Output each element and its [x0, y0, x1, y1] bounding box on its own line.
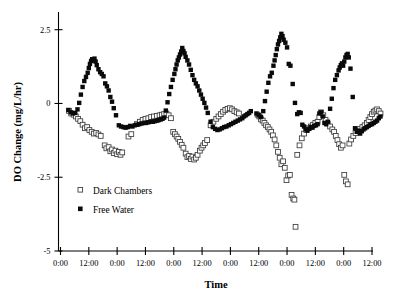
- data-point: [189, 68, 193, 72]
- data-point: [112, 106, 116, 110]
- data-point: [266, 81, 270, 85]
- data-point: [199, 92, 203, 96]
- data-point: [274, 53, 278, 57]
- data-point: [181, 145, 186, 150]
- scatter-plot-svg: 2.50-2.5-5 0:0012:000:0012:000:0012:000:…: [0, 0, 400, 298]
- data-point: [295, 152, 300, 157]
- series-free-water-points: [66, 32, 382, 136]
- data-point: [331, 86, 335, 90]
- data-point: [341, 64, 345, 68]
- data-point: [271, 64, 275, 68]
- data-point: [342, 59, 346, 63]
- x-tick-label: 0:00: [336, 259, 351, 268]
- data-point: [79, 92, 83, 96]
- data-point: [326, 120, 330, 124]
- data-point: [282, 165, 287, 170]
- data-point: [208, 120, 212, 124]
- data-point: [292, 197, 297, 202]
- data-point: [167, 92, 171, 96]
- data-point: [164, 108, 168, 112]
- data-point: [195, 84, 199, 88]
- x-tick-label: 0:00: [280, 259, 295, 268]
- data-point: [197, 88, 201, 92]
- data-point: [169, 85, 173, 89]
- data-point: [285, 45, 289, 49]
- data-point: [264, 89, 268, 93]
- data-point: [319, 110, 323, 114]
- data-point: [206, 111, 210, 115]
- data-point: [298, 111, 302, 115]
- data-point: [82, 79, 86, 83]
- y-tick-label: 0: [46, 99, 50, 108]
- data-point: [110, 100, 114, 104]
- chart-legend: Dark Chambers Free Water: [78, 186, 152, 215]
- data-point: [172, 72, 176, 76]
- data-point: [272, 58, 276, 62]
- x-tick-label: 12:00: [79, 259, 98, 268]
- data-point: [378, 114, 382, 118]
- data-point: [101, 74, 105, 78]
- data-point: [200, 97, 204, 101]
- data-point: [287, 172, 292, 177]
- data-point: [190, 73, 194, 77]
- y-axis-tick-labels: 2.50-2.5-5: [37, 26, 50, 256]
- data-point: [237, 111, 242, 116]
- data-point: [259, 115, 263, 119]
- data-point: [162, 115, 166, 119]
- data-point: [284, 178, 289, 183]
- data-point: [106, 88, 110, 92]
- data-point: [169, 116, 174, 121]
- data-point: [288, 64, 292, 68]
- legend-marker-dark-chambers: [78, 188, 83, 193]
- data-point: [98, 134, 103, 139]
- data-point: [291, 82, 295, 86]
- data-point: [333, 78, 337, 82]
- data-point: [170, 78, 174, 82]
- data-point: [204, 105, 208, 109]
- data-point: [351, 95, 355, 99]
- data-point: [345, 182, 350, 187]
- data-point: [77, 101, 81, 105]
- y-axis-title: DO Change (mg/L/hr): [12, 82, 24, 182]
- x-tick-label: 12:00: [362, 259, 381, 268]
- data-point: [185, 58, 189, 62]
- data-point: [120, 150, 125, 155]
- x-axis-tick-labels: 0:0012:000:0012:000:0012:000:0012:000:00…: [53, 259, 381, 268]
- data-point: [205, 138, 210, 143]
- data-point: [275, 47, 279, 51]
- data-point: [261, 109, 265, 113]
- data-point: [299, 136, 304, 141]
- y-tick-label: 2.5: [40, 26, 50, 35]
- data-point: [108, 95, 112, 99]
- data-point: [263, 99, 267, 103]
- x-tick-label: 12:00: [136, 259, 155, 268]
- data-point: [272, 137, 277, 142]
- x-tick-label: 12:00: [193, 259, 212, 268]
- legend-label-free-water: Free Water: [93, 205, 135, 215]
- data-point: [85, 71, 89, 75]
- data-point: [165, 100, 169, 104]
- data-point: [249, 109, 253, 113]
- x-tick-label: 12:00: [249, 259, 268, 268]
- data-point: [84, 75, 88, 79]
- data-point: [173, 67, 177, 71]
- x-tick-label: 0:00: [53, 259, 68, 268]
- x-tick-label: 12:00: [306, 259, 325, 268]
- data-point: [276, 149, 281, 154]
- data-point: [174, 62, 178, 66]
- data-point: [340, 143, 345, 148]
- y-tick-label: -2.5: [37, 173, 50, 182]
- chart-figure: 2.50-2.5-5 0:0012:000:0012:000:0012:000:…: [0, 0, 400, 298]
- data-point: [80, 85, 84, 89]
- data-point: [202, 101, 206, 105]
- data-point: [95, 63, 99, 67]
- data-point: [187, 62, 191, 66]
- data-point: [274, 143, 279, 148]
- data-point: [270, 71, 274, 75]
- legend-label-dark-chambers: Dark Chambers: [93, 186, 152, 196]
- data-point: [330, 97, 334, 101]
- data-point: [321, 114, 325, 118]
- data-point: [281, 159, 286, 164]
- data-point: [297, 143, 302, 148]
- data-point: [348, 66, 352, 70]
